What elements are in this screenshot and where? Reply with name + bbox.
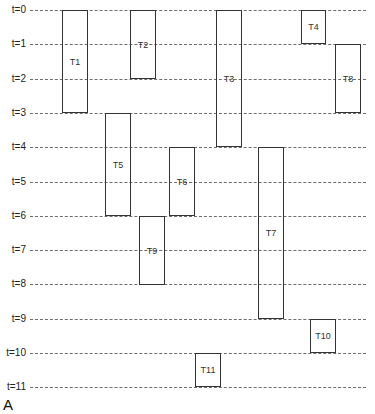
task-label: T2 — [138, 40, 149, 50]
time-label: t=6 — [0, 210, 26, 222]
task-box-t8: T8 — [335, 44, 361, 113]
task-box-t2: T2 — [130, 10, 156, 79]
time-label: t=10 — [0, 347, 26, 359]
task-label: T9 — [147, 246, 158, 256]
time-label: t=11 — [0, 381, 26, 393]
time-gridline — [30, 147, 366, 148]
task-box-t4: T4 — [301, 10, 326, 44]
time-label: t=9 — [0, 313, 26, 325]
task-box-t7: T7 — [258, 147, 284, 319]
time-gridline — [30, 284, 366, 285]
task-label: T7 — [266, 228, 277, 238]
time-gridline — [30, 387, 366, 388]
time-gridline — [30, 216, 366, 217]
task-label: T6 — [177, 177, 188, 187]
time-label: t=5 — [0, 176, 26, 188]
task-box-t6: T6 — [169, 147, 195, 216]
task-label: T1 — [70, 57, 81, 67]
time-label: t=2 — [0, 73, 26, 85]
time-gridline — [30, 182, 366, 183]
task-box-t10: T10 — [310, 319, 336, 353]
task-label: T10 — [315, 331, 331, 341]
task-label: T5 — [113, 160, 124, 170]
time-label: t=4 — [0, 141, 26, 153]
task-box-t1: T1 — [62, 10, 88, 113]
time-label: t=0 — [0, 4, 26, 16]
task-label: T4 — [308, 22, 319, 32]
time-label: t=3 — [0, 107, 26, 119]
time-label: t=1 — [0, 38, 26, 50]
task-box-t5: T5 — [105, 113, 131, 216]
task-box-t9: T9 — [139, 216, 165, 285]
time-gridline — [30, 113, 366, 114]
task-box-t3: T3 — [216, 10, 242, 147]
time-label: t=8 — [0, 278, 26, 290]
task-box-t11: T11 — [195, 353, 221, 387]
task-label: T8 — [343, 74, 354, 84]
time-label: t=7 — [0, 244, 26, 256]
task-timeline-diagram: t=0t=1t=2t=3t=4t=5t=6t=7t=8t=9t=10t=11 T… — [0, 0, 375, 414]
panel-label: A — [3, 396, 13, 413]
task-label: T11 — [201, 365, 216, 375]
time-gridline — [30, 250, 366, 251]
task-label: T3 — [224, 74, 235, 84]
